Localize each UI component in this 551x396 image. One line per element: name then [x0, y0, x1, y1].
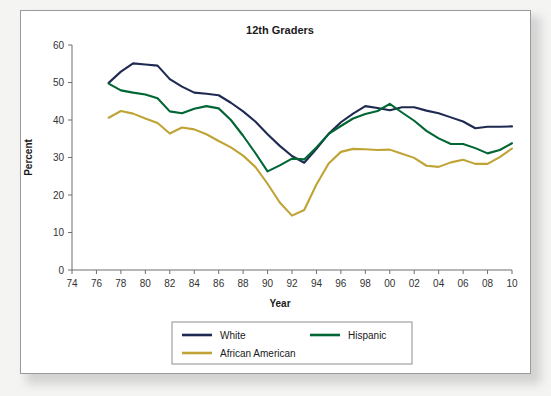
x-tick-label: 10 — [506, 278, 518, 289]
y-tick-label: 10 — [53, 227, 65, 238]
x-tick-label: 76 — [91, 278, 103, 289]
legend-label-white: White — [220, 330, 246, 341]
series-line-hispanic — [109, 84, 512, 172]
x-tick-label: 78 — [115, 278, 127, 289]
x-tick-label: 86 — [213, 278, 225, 289]
x-tick-label: 00 — [384, 278, 396, 289]
x-tick-label: 04 — [433, 278, 445, 289]
x-tick-label: 84 — [189, 278, 201, 289]
x-tick-label: 82 — [164, 278, 176, 289]
y-tick-label: 50 — [53, 77, 65, 88]
x-tick-label: 94 — [311, 278, 323, 289]
x-tick-label: 88 — [238, 278, 250, 289]
series-line-white — [109, 63, 512, 162]
figure-root: 12th Graders0102030405060Percent74767880… — [0, 0, 551, 396]
y-axis-title: Percent — [23, 138, 34, 175]
x-tick-label: 98 — [360, 278, 372, 289]
x-tick-label: 92 — [286, 278, 298, 289]
x-tick-label: 74 — [66, 278, 78, 289]
series-line-african-american — [109, 111, 512, 216]
x-tick-label: 90 — [262, 278, 274, 289]
y-tick-label: 60 — [53, 40, 65, 51]
x-tick-label: 06 — [458, 278, 470, 289]
x-tick-label: 80 — [140, 278, 152, 289]
chart-title: 12th Graders — [246, 24, 314, 36]
x-axis-title: Year — [269, 298, 290, 309]
y-tick-label: 30 — [53, 152, 65, 163]
x-tick-label: 08 — [482, 278, 494, 289]
x-tick-label: 96 — [335, 278, 347, 289]
y-tick-label: 40 — [53, 115, 65, 126]
y-tick-label: 0 — [58, 265, 64, 276]
legend-label-hispanic: Hispanic — [348, 330, 386, 341]
legend-label-african-american: African American — [220, 348, 296, 359]
y-tick-label: 20 — [53, 190, 65, 201]
line-chart: 12th Graders0102030405060Percent74767880… — [0, 0, 551, 396]
x-tick-label: 02 — [409, 278, 421, 289]
